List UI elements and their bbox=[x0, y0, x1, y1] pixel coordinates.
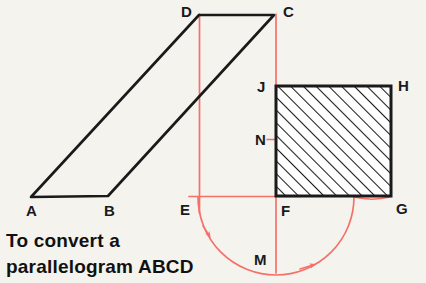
vertex-label-h: H bbox=[398, 77, 409, 94]
vertex-label-j: J bbox=[257, 78, 265, 95]
vertex-label-g: G bbox=[396, 200, 408, 217]
vertex-label-f: F bbox=[281, 202, 290, 219]
geometry-diagram: A B C D E F G H J M N To convert a paral… bbox=[0, 0, 426, 283]
vertex-label-c: C bbox=[283, 3, 294, 20]
vertex-label-a: A bbox=[26, 202, 37, 219]
vertex-label-m: M bbox=[254, 251, 267, 268]
rectangle-jfgh-hatch-fill bbox=[276, 86, 391, 196]
vertex-label-d: D bbox=[181, 3, 192, 20]
vertex-label-b: B bbox=[104, 202, 115, 219]
vertex-label-n: N bbox=[255, 131, 266, 148]
caption-line-1: To convert a bbox=[6, 230, 120, 251]
caption-line-2: parallelogram ABCD bbox=[6, 256, 194, 277]
vertex-label-e: E bbox=[180, 201, 190, 218]
